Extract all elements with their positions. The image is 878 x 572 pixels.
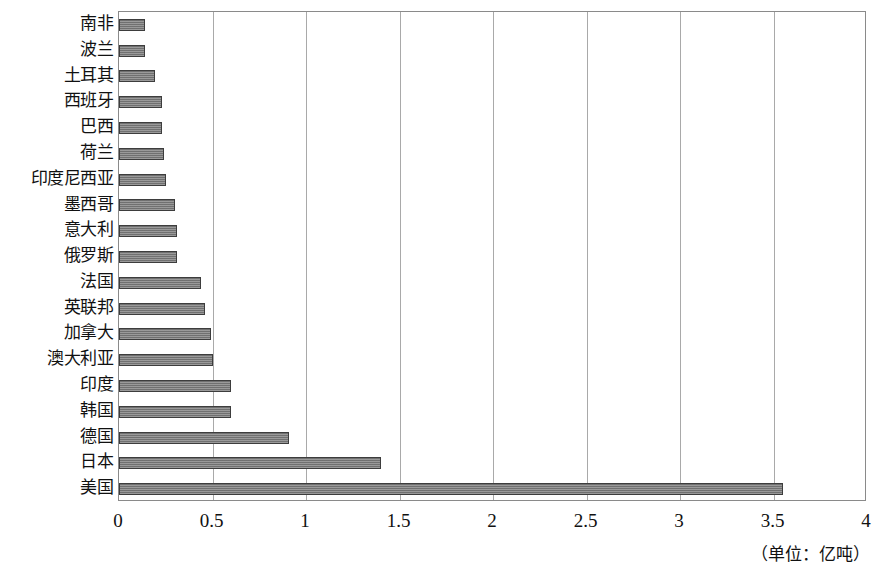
bar (119, 148, 164, 160)
category-label: 韩国 (80, 398, 113, 424)
unit-caption: （单位：亿吨） (751, 540, 870, 565)
category-label: 巴西 (80, 114, 113, 140)
bar (119, 483, 783, 495)
bar-row (119, 296, 865, 322)
category-label: 印度尼西亚 (31, 166, 114, 192)
bar (119, 122, 162, 134)
category-label: 英联邦 (64, 295, 114, 321)
bar (119, 19, 145, 31)
bar-row (119, 115, 865, 141)
category-label: 美国 (80, 475, 113, 501)
value-tick-label: 4 (861, 508, 871, 534)
bar (119, 354, 213, 366)
bar-row (119, 425, 865, 451)
category-label: 墨西哥 (64, 192, 114, 218)
category-label: 意大利 (64, 217, 114, 243)
bar-rows (119, 12, 865, 500)
value-tick-label: 1.5 (387, 508, 411, 534)
bar-row (119, 167, 865, 193)
bar (119, 277, 201, 289)
value-tick-label: 1 (300, 508, 310, 534)
bar-row (119, 12, 865, 38)
category-label: 俄罗斯 (64, 243, 114, 269)
bar (119, 406, 231, 418)
bar (119, 199, 175, 211)
category-label: 荷兰 (80, 140, 113, 166)
value-tick-label: 3 (674, 508, 684, 534)
bar-row (119, 321, 865, 347)
bar (119, 45, 145, 57)
bar (119, 70, 155, 82)
bar-row (119, 64, 865, 90)
value-tick-label: 0 (113, 508, 123, 534)
category-label: 德国 (80, 424, 113, 450)
bar-row (119, 399, 865, 425)
category-label: 南非 (80, 11, 113, 37)
bar-row (119, 38, 865, 64)
category-label: 土耳其 (64, 63, 114, 89)
bar-row (119, 89, 865, 115)
bar (119, 457, 381, 469)
category-label: 法国 (80, 269, 113, 295)
bar-row (119, 476, 865, 502)
bar-row (119, 373, 865, 399)
category-label: 澳大利亚 (47, 346, 113, 372)
bar-row (119, 244, 865, 270)
bar-chart: 南非波兰土耳其西班牙巴西荷兰印度尼西亚墨西哥意大利俄罗斯法国英联邦加拿大澳大利亚… (0, 0, 878, 572)
category-label: 日本 (80, 449, 113, 475)
bar-row (119, 270, 865, 296)
bar (119, 380, 231, 392)
bar (119, 96, 162, 108)
bar-row (119, 450, 865, 476)
bar-row (119, 347, 865, 373)
category-axis-labels: 南非波兰土耳其西班牙巴西荷兰印度尼西亚墨西哥意大利俄罗斯法国英联邦加拿大澳大利亚… (0, 11, 113, 501)
bar (119, 174, 166, 186)
category-label: 波兰 (80, 37, 113, 63)
category-label: 加拿大 (64, 320, 114, 346)
value-tick-label: 2.5 (574, 508, 598, 534)
bar (119, 328, 211, 340)
bar-row (119, 218, 865, 244)
category-label: 印度 (80, 372, 113, 398)
value-tick-label: 2 (487, 508, 497, 534)
plot-area (118, 11, 866, 501)
bar-row (119, 193, 865, 219)
bar (119, 303, 205, 315)
category-label: 西班牙 (64, 88, 114, 114)
bar (119, 251, 177, 263)
bar (119, 432, 289, 444)
bar-row (119, 141, 865, 167)
value-tick-label: 0.5 (200, 508, 224, 534)
value-axis-labels: 00.511.522.533.54 (0, 508, 878, 538)
bar (119, 225, 177, 237)
value-tick-label: 3.5 (761, 508, 785, 534)
